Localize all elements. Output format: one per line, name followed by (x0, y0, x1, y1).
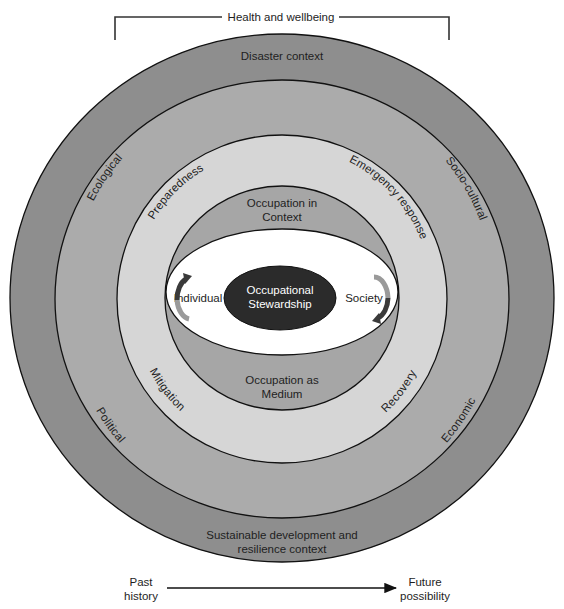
past-history-line2: history (124, 590, 158, 602)
timeline: Past history Future possibility (124, 576, 450, 602)
sustainable-development-label-line1: Sustainable development and (206, 529, 358, 541)
occupation-in-context-line2: Context (262, 211, 302, 223)
future-possibility-line2: possibility (400, 590, 450, 602)
occupation-as-medium-line2: Medium (262, 388, 303, 400)
occupation-as-medium-line1: Occupation as (245, 374, 319, 386)
occupational-stewardship-line1: Occupational (246, 284, 313, 296)
future-possibility-line1: Future (408, 576, 441, 588)
occupation-in-context-line1: Occupation in (247, 197, 317, 209)
sustainable-development-label-line2: resilience context (238, 543, 328, 555)
occupational-stewardship-line2: Stewardship (248, 298, 311, 310)
past-history-line1: Past (129, 576, 153, 588)
disaster-context-label: Disaster context (241, 50, 324, 62)
occupational-stewardship-diagram: Health and wellbeing Disaster context Su… (0, 0, 564, 609)
society-label: Society (345, 292, 383, 304)
individual-label: Individual (174, 292, 223, 304)
health-wellbeing-label: Health and wellbeing (228, 11, 335, 23)
